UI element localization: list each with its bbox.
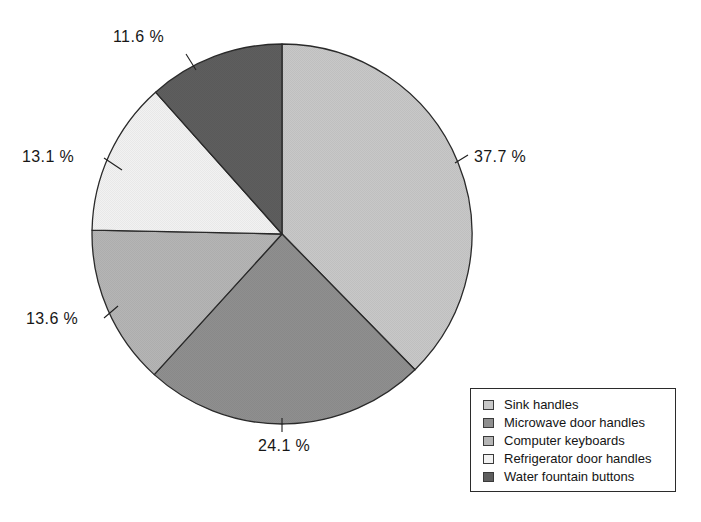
legend-item-label: Sink handles: [504, 398, 578, 412]
legend-item-label: Water fountain buttons: [504, 470, 634, 484]
legend-swatch-icon: [483, 436, 494, 446]
legend-swatch-icon: [483, 472, 494, 482]
legend-item-label: Refrigerator door handles: [504, 452, 651, 466]
legend-item-label: Computer keyboards: [504, 434, 625, 448]
legend-item: Water fountain buttons: [483, 468, 669, 486]
legend-item: Microwave door handles: [483, 414, 669, 432]
pie-texture-overlay: [92, 44, 472, 424]
pie-percent-label: 13.1 %: [22, 148, 74, 166]
legend-item: Refrigerator door handles: [483, 450, 669, 468]
pie-percent-label: 11.6 %: [113, 28, 164, 46]
legend-swatch-icon: [483, 418, 494, 428]
legend-swatch-icon: [483, 454, 494, 464]
legend-item: Sink handles: [483, 396, 669, 414]
pie-percent-label: 37.7 %: [474, 148, 526, 166]
pie-chart-figure: 37.7 %24.1 %13.6 %13.1 %11.6 % Sink hand…: [0, 0, 701, 522]
legend-item-label: Microwave door handles: [504, 416, 645, 430]
chart-legend: Sink handlesMicrowave door handlesComput…: [470, 388, 676, 492]
legend-swatch-icon: [483, 400, 494, 410]
pie-percent-label: 24.1 %: [258, 437, 310, 455]
legend-item-list: Sink handlesMicrowave door handlesComput…: [483, 396, 669, 486]
legend-item: Computer keyboards: [483, 432, 669, 450]
pie-percent-label: 13.6 %: [26, 310, 78, 328]
